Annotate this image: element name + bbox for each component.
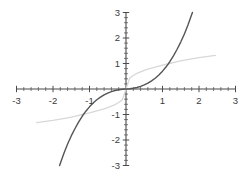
x-axis-tick-label: 2 <box>196 95 201 106</box>
y-axis-tick-label: 2 <box>115 32 120 43</box>
x-axis-tick-label: 1 <box>160 95 165 106</box>
x-axis-tick-label: -3 <box>12 95 20 106</box>
chart-figure: -3-2-1123-3-2-1123 <box>0 0 251 180</box>
y-axis-tick-label: -1 <box>112 109 120 120</box>
y-axis-tick-label: 3 <box>115 7 120 18</box>
chart-canvas: -3-2-1123-3-2-1123 <box>0 0 251 180</box>
y-axis-tick-label: -3 <box>112 160 120 171</box>
x-axis-tick-label: -2 <box>49 95 57 106</box>
y-axis-tick-label: 1 <box>115 58 120 69</box>
x-axis-tick-label: 3 <box>233 95 238 106</box>
y-axis-tick-label: -2 <box>112 134 120 145</box>
